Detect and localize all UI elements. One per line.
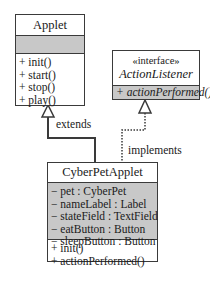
stereotype-label: «interface» <box>113 55 199 67</box>
class-applet-methods: + init() + start() + stop() + play() <box>16 53 84 106</box>
method: + actionPerformed() <box>48 255 157 268</box>
class-cyber-pet-applet-attributes: − pet : CyberPet − nameLabel : Label − s… <box>48 182 157 239</box>
class-cyber-pet-applet-name: CyberPetApplet <box>48 163 157 182</box>
method: + actionPerformed() <box>113 86 199 99</box>
extends-arrowhead-icon <box>42 105 54 117</box>
implements-arrowhead-icon <box>139 100 151 113</box>
attribute: − pet : CyberPet <box>48 185 157 198</box>
interface-action-listener: «interface» ActionListener + actionPerfo… <box>112 50 200 100</box>
attribute: − nameLabel : Label <box>48 198 157 211</box>
method: + stop() <box>16 81 84 94</box>
class-cyber-pet-applet: CyberPetApplet − pet : CyberPet − nameLa… <box>47 162 158 262</box>
method: + init() <box>16 56 84 69</box>
class-applet: Applet + init() + start() + stop() + pla… <box>15 14 85 106</box>
interface-methods: + actionPerformed() <box>113 85 199 99</box>
method: + start() <box>16 69 84 82</box>
interface-name: ActionListener <box>113 67 199 81</box>
implements-label: implements <box>128 144 182 156</box>
method: + play() <box>16 94 84 107</box>
attribute: − eatButton : Button <box>48 223 157 236</box>
interface-header: «interface» ActionListener <box>113 51 199 85</box>
class-applet-attributes <box>16 35 84 53</box>
class-applet-name: Applet <box>16 15 84 35</box>
extends-label: extends <box>56 118 91 130</box>
attribute: − stateField : TextField <box>48 210 157 223</box>
